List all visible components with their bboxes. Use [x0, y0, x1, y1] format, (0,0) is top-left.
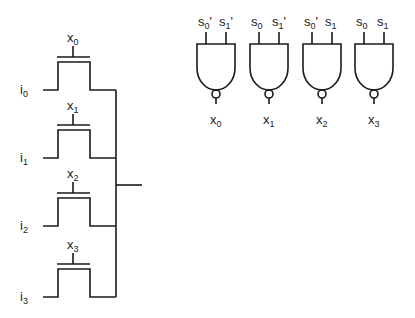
- input-label: i1: [20, 150, 28, 167]
- output-label: x3: [368, 112, 380, 129]
- pass-transistor-row: x2i2: [20, 166, 116, 235]
- nand-gate: s0s1'x1: [250, 14, 288, 129]
- input-label-a: s0': [304, 14, 318, 31]
- nand-decoder: s0's1'x0s0s1'x1s0's1x2s0s1x3: [197, 14, 393, 129]
- gate-label: x3: [67, 237, 79, 254]
- gate-label: x1: [67, 98, 79, 115]
- input-label-a: s0: [356, 14, 368, 31]
- output-label: x0: [210, 112, 222, 129]
- inversion-bubble: [318, 90, 326, 98]
- nand-body: [250, 44, 288, 90]
- input-label-a: s0': [198, 14, 212, 31]
- transistor-channel: [43, 130, 116, 158]
- pass-transistor-row: x0i0: [20, 30, 116, 99]
- nand-body: [355, 44, 393, 90]
- transistor-channel: [43, 62, 116, 90]
- transistor-channel: [43, 198, 116, 226]
- input-label-a: s0: [251, 14, 263, 31]
- input-label: i0: [20, 82, 28, 99]
- pass-transistor-row: x3i3: [20, 237, 116, 306]
- input-label: i3: [20, 289, 28, 306]
- output-label: x1: [263, 112, 275, 129]
- nand-gate: s0's1'x0: [197, 14, 235, 129]
- input-label: i2: [20, 218, 28, 235]
- input-label-b: s1: [325, 14, 337, 31]
- nand-gate: s0's1x2: [303, 14, 341, 129]
- input-label-b: s1': [219, 14, 233, 31]
- nand-body: [197, 44, 235, 90]
- inversion-bubble: [370, 90, 378, 98]
- nand-gate: s0s1x3: [355, 14, 393, 129]
- pass-transistor-row: x1i1: [20, 98, 116, 167]
- transistor-channel: [43, 269, 116, 297]
- diagram-canvas: x0i0x1i1x2i2x3i3 s0's1'x0s0s1'x1s0's1x2s…: [0, 0, 415, 318]
- output-label: x2: [316, 112, 328, 129]
- nand-body: [303, 44, 341, 90]
- input-label-b: s1': [272, 14, 286, 31]
- inversion-bubble: [212, 90, 220, 98]
- transistor-mux: x0i0x1i1x2i2x3i3: [20, 30, 142, 306]
- input-label-b: s1: [377, 14, 389, 31]
- gate-label: x0: [67, 30, 79, 47]
- inversion-bubble: [265, 90, 273, 98]
- gate-label: x2: [67, 166, 79, 183]
